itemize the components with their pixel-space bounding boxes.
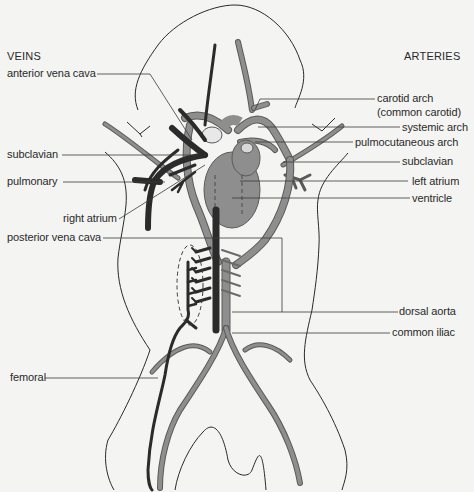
label-dorsal-aorta: dorsal aorta bbox=[399, 305, 456, 318]
heart bbox=[202, 120, 260, 228]
arteries bbox=[105, 42, 342, 488]
label-common-iliac: common iliac bbox=[392, 326, 455, 339]
label-systemic-arch: systemic arch bbox=[402, 121, 468, 134]
kidney-outline bbox=[177, 245, 203, 325]
body-outline bbox=[105, 5, 348, 490]
label-anterior-vena-cava: anterior vena cava bbox=[7, 67, 96, 80]
label-femoral-vein: femoral bbox=[10, 371, 46, 384]
label-ventricle: ventricle bbox=[412, 192, 452, 205]
label-pulmocutaneous-arch: pulmocutaneous arch bbox=[355, 136, 458, 149]
arteries-heading: ARTERIES bbox=[404, 50, 460, 63]
label-subclavian-vein: subclavian bbox=[7, 148, 58, 161]
label-pulmonary-vein: pulmonary bbox=[7, 175, 57, 188]
label-left-atrium: left atrium bbox=[412, 175, 459, 188]
label-right-atrium: right atrium bbox=[63, 212, 117, 225]
label-common-carotid: (common carotid) bbox=[377, 106, 461, 119]
label-carotid-arch: carotid arch bbox=[377, 92, 433, 105]
label-posterior-vena-cava: posterior vena cava bbox=[7, 231, 101, 244]
label-subclavian-artery: subclavian bbox=[402, 155, 453, 168]
veins-heading: VEINS bbox=[7, 50, 41, 63]
